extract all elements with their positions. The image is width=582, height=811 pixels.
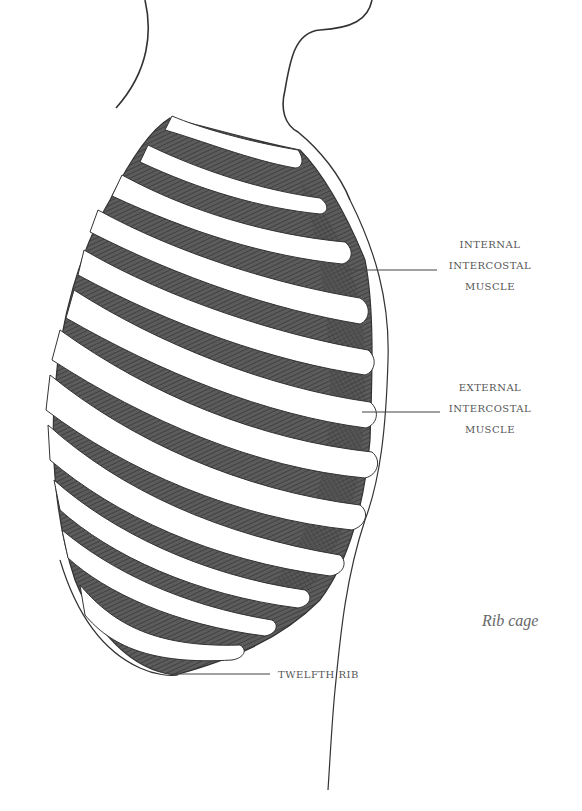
label-line: EXTERNAL	[440, 377, 540, 398]
label-line: MUSCLE	[440, 419, 540, 440]
label-twelfth-rib: TWELFTH RIB	[278, 664, 359, 685]
label-line: MUSCLE	[440, 276, 540, 297]
label-line: INTERCOSTAL	[440, 255, 540, 276]
label-text: TWELFTH RIB	[278, 669, 359, 680]
label-line: INTERCOSTAL	[440, 398, 540, 419]
label-internal-intercostal-muscle: INTERNAL INTERCOSTAL MUSCLE	[440, 234, 540, 297]
label-external-intercostal-muscle: EXTERNAL INTERCOSTAL MUSCLE	[440, 377, 540, 440]
figure-caption: Rib cage	[482, 612, 538, 630]
label-line: INTERNAL	[440, 234, 540, 255]
